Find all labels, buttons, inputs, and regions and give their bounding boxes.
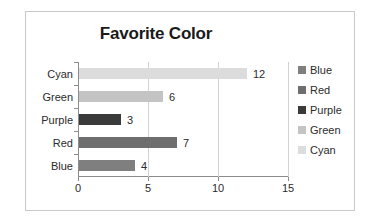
x-tick-5 bbox=[148, 177, 149, 181]
y-tick-blue bbox=[74, 154, 78, 155]
bar-value-green: 6 bbox=[169, 91, 175, 103]
x-axis-label-0: 0 bbox=[75, 182, 81, 194]
bar-row-blue[interactable]: Blue4 bbox=[79, 154, 147, 177]
legend-swatch-blue-icon bbox=[298, 66, 306, 74]
y-tick-purple bbox=[74, 108, 78, 109]
legend-label-green: Green bbox=[310, 124, 341, 136]
legend-swatch-purple-icon bbox=[298, 106, 306, 114]
legend-label-purple: Purple bbox=[310, 104, 342, 116]
x-tick-15 bbox=[288, 177, 289, 181]
bar-value-blue: 4 bbox=[141, 160, 147, 172]
bar-green[interactable] bbox=[79, 91, 163, 102]
legend-item-blue[interactable]: Blue bbox=[298, 60, 358, 80]
bar-red[interactable] bbox=[79, 137, 177, 148]
legend-swatch-cyan-icon bbox=[298, 146, 306, 154]
legend-label-cyan: Cyan bbox=[310, 144, 336, 156]
category-label-blue: Blue bbox=[13, 160, 73, 172]
gridline-15 bbox=[288, 62, 289, 177]
plot-area: Blue4Red7Purple3Green6Cyan12 051015 bbox=[78, 62, 288, 177]
legend-item-purple[interactable]: Purple bbox=[298, 100, 358, 120]
legend-item-green[interactable]: Green bbox=[298, 120, 358, 140]
legend-item-red[interactable]: Red bbox=[298, 80, 358, 100]
chart-title: Favorite Color bbox=[26, 24, 286, 44]
legend-label-red: Red bbox=[310, 84, 330, 96]
category-label-red: Red bbox=[13, 137, 73, 149]
bar-purple[interactable] bbox=[79, 114, 121, 125]
legend-label-blue: Blue bbox=[310, 64, 332, 76]
x-axis-label-10: 10 bbox=[212, 182, 224, 194]
category-label-green: Green bbox=[13, 91, 73, 103]
bar-value-cyan: 12 bbox=[253, 68, 265, 80]
y-tick-green bbox=[74, 85, 78, 86]
bar-cyan[interactable] bbox=[79, 68, 247, 79]
legend-swatch-red-icon bbox=[298, 86, 306, 94]
legend-item-cyan[interactable]: Cyan bbox=[298, 140, 358, 160]
category-label-cyan: Cyan bbox=[13, 68, 73, 80]
x-axis-label-15: 15 bbox=[282, 182, 294, 194]
x-tick-10 bbox=[218, 177, 219, 181]
chart-legend: BlueRedPurpleGreenCyan bbox=[298, 60, 358, 160]
bar-row-purple[interactable]: Purple3 bbox=[79, 108, 133, 131]
bar-blue[interactable] bbox=[79, 160, 135, 171]
legend-swatch-green-icon bbox=[298, 126, 306, 134]
x-tick-0 bbox=[78, 177, 79, 181]
x-axis-label-5: 5 bbox=[145, 182, 151, 194]
y-tick-red bbox=[74, 131, 78, 132]
chart-frame: Favorite Color Blue4Red7Purple3Green6Cya… bbox=[25, 11, 355, 211]
bar-row-cyan[interactable]: Cyan12 bbox=[79, 62, 265, 85]
y-tick-cyan bbox=[74, 62, 78, 63]
bar-row-red[interactable]: Red7 bbox=[79, 131, 189, 154]
bar-row-green[interactable]: Green6 bbox=[79, 85, 175, 108]
category-label-purple: Purple bbox=[13, 114, 73, 126]
bar-value-purple: 3 bbox=[127, 114, 133, 126]
bar-value-red: 7 bbox=[183, 137, 189, 149]
